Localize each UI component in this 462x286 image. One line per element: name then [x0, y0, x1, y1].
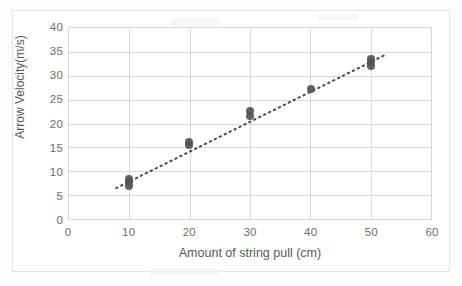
- scan-speckle: [170, 18, 220, 26]
- y-tick-40: 40: [50, 21, 63, 33]
- gridline-y-10: [69, 171, 431, 172]
- gridline-x-30: [250, 28, 251, 219]
- x-tick-20: 20: [183, 226, 196, 238]
- y-tick-5: 5: [56, 190, 63, 202]
- y-tick-35: 35: [50, 45, 63, 57]
- gridline-y-30: [69, 76, 431, 77]
- y-tick-30: 30: [50, 69, 63, 81]
- gridline-y-15: [69, 147, 431, 148]
- y-tick-0: 0: [56, 214, 63, 226]
- y-axis-title: Arrow Velocity(m/s): [13, 7, 27, 167]
- x-tick-10: 10: [122, 226, 135, 238]
- scan-speckle: [150, 268, 220, 275]
- y-tick-25: 25: [50, 93, 63, 105]
- scan-speckle: [318, 14, 358, 20]
- gridline-x-20: [190, 28, 191, 219]
- x-axis-title: Amount of string pull (cm): [68, 246, 432, 260]
- gridline-x-50: [371, 28, 372, 219]
- x-tick-40: 40: [304, 226, 317, 238]
- gridline-x-40: [310, 28, 311, 219]
- horizontal-gridlines: [69, 28, 431, 219]
- y-tick-20: 20: [50, 118, 63, 130]
- x-tick-0: 0: [65, 226, 72, 238]
- chart-figure: Arrow Velocity(m/s) 40 35 30 25 20 15 10…: [0, 0, 462, 286]
- y-axis-tick-labels: 40 35 30 25 20 15 10 5 0: [36, 27, 63, 220]
- x-tick-60: 60: [425, 226, 438, 238]
- vertical-gridlines: [69, 28, 431, 219]
- plot-area: [68, 27, 432, 220]
- x-tick-30: 30: [243, 226, 256, 238]
- gridline-x-10: [129, 28, 130, 219]
- x-tick-50: 50: [365, 226, 378, 238]
- gridline-y-35: [69, 52, 431, 53]
- gridline-y-5: [69, 195, 431, 196]
- y-tick-15: 15: [50, 142, 63, 154]
- gridline-y-20: [69, 124, 431, 125]
- y-tick-10: 10: [50, 166, 63, 178]
- x-axis-tick-labels: 0 10 20 30 40 50 60: [68, 226, 432, 242]
- gridline-y-25: [69, 100, 431, 101]
